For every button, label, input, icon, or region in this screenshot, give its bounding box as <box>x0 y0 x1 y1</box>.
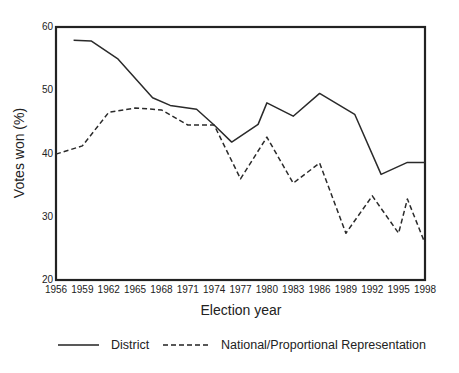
y-tick-label: 40 <box>42 148 54 159</box>
legend: District National/Proportional Represent… <box>58 338 426 352</box>
x-axis-label: Election year <box>201 302 282 318</box>
series-lines <box>56 40 425 243</box>
x-axis-ticks: 1956195919621965196819711974197719801983… <box>45 284 437 295</box>
y-axis-label: Votes won (%) <box>11 108 27 198</box>
x-tick-label: 1986 <box>308 284 331 295</box>
x-tick-label: 1968 <box>150 284 173 295</box>
x-tick-label: 1974 <box>203 284 226 295</box>
y-tick-label: 30 <box>42 211 54 222</box>
x-tick-label: 1977 <box>229 284 252 295</box>
y-tick-label: 60 <box>42 21 54 32</box>
x-tick-label: 1992 <box>361 284 384 295</box>
x-tick-label: 1959 <box>71 284 94 295</box>
plot-frame <box>56 27 425 280</box>
legend-label-national: National/Proportional Representation <box>221 338 426 352</box>
x-tick-label: 1995 <box>388 284 411 295</box>
x-tick-label: 1956 <box>45 284 68 295</box>
x-tick-label: 1998 <box>414 284 437 295</box>
x-tick-label: 1989 <box>335 284 358 295</box>
x-tick-label: 1965 <box>124 284 147 295</box>
series-line-national <box>56 108 425 243</box>
y-tick-label: 50 <box>42 84 54 95</box>
x-tick-label: 1971 <box>177 284 200 295</box>
x-tick-label: 1980 <box>256 284 279 295</box>
plot-border <box>56 27 425 280</box>
legend-label-district: District <box>111 338 150 352</box>
series-line-district <box>74 40 425 174</box>
x-tick-label: 1962 <box>98 284 121 295</box>
y-axis-ticks: 2030405060 <box>42 21 54 285</box>
line-chart: 2030405060 19561959196219651968197119741… <box>0 0 459 373</box>
x-tick-label: 1983 <box>282 284 305 295</box>
